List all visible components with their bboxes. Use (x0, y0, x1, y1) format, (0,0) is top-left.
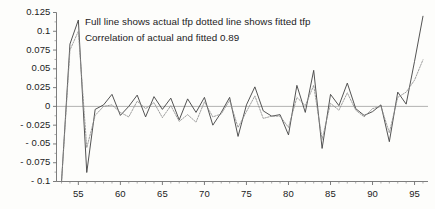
y-axis-tick-label: - 0.05 (26, 137, 51, 148)
y-axis-tick-label: 0.025 (26, 81, 50, 92)
x-axis-tick-label: 95 (395, 188, 435, 199)
annotation-line-2: Correlation of actual and fitted 0.89 (85, 32, 239, 43)
chart-figure: - 0.1- 0.075- 0.05- 0.02500.0250.050.075… (0, 0, 435, 209)
y-axis-tick-label: 0 (45, 100, 50, 111)
x-axis-tick-label: 55 (58, 188, 98, 199)
x-axis-tick-label: 80 (268, 188, 308, 199)
y-axis-tick-label: 0.125 (26, 6, 50, 17)
annotation-line-1: Full line shows actual tfp dotted line s… (85, 16, 310, 27)
y-axis-tick-label: - 0.025 (20, 119, 50, 130)
x-axis-tick-label: 70 (184, 188, 224, 199)
x-axis-tick-label: 75 (226, 188, 266, 199)
y-axis-tick-label: - 0.1 (31, 175, 51, 186)
y-axis-tick-label: 0.05 (32, 62, 51, 73)
x-axis-tick-label: 60 (100, 188, 140, 199)
x-axis-tick-label: 85 (311, 188, 351, 199)
y-axis-tick-label: - 0.075 (20, 156, 50, 167)
y-axis-tick-label: 0.1 (37, 25, 51, 36)
x-axis-tick-label: 90 (353, 188, 393, 199)
y-axis-tick-label: 0.075 (26, 44, 50, 55)
x-axis-tick-label: 65 (142, 188, 182, 199)
